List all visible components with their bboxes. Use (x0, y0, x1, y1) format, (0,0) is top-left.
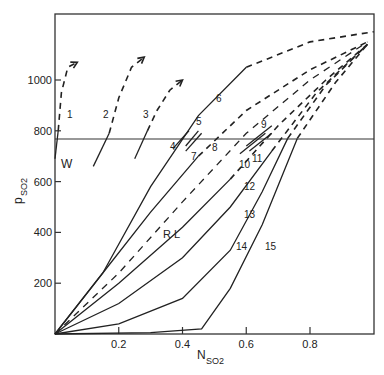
x-tick-label: 0.8 (302, 338, 317, 350)
series-label: 4 (170, 141, 176, 152)
series-label: 9 (261, 119, 267, 130)
series-8 (55, 156, 198, 334)
series-label: 7 (191, 151, 197, 162)
series-label: 3 (143, 109, 149, 120)
svg-text:SO2: SO2 (19, 178, 29, 196)
series-label: 12 (244, 181, 256, 192)
y-tick-label: 200 (34, 277, 52, 289)
series-6-dashed (246, 32, 373, 68)
svg-text:p: p (11, 197, 25, 204)
y-axis-label: p SO2 (11, 178, 29, 204)
y-tick-label: 1000 (28, 74, 52, 86)
series-1-dashed (58, 62, 77, 131)
series-2 (93, 133, 109, 166)
series-label: 14 (236, 241, 248, 252)
y-tick-label: 400 (34, 226, 52, 238)
annotation-label: R L (163, 228, 180, 240)
x-tick-label: 0.6 (239, 338, 254, 350)
series-13-dashed (272, 44, 368, 151)
y-tick-label: 800 (34, 125, 52, 137)
series-group (55, 32, 374, 334)
series-label: 13 (244, 209, 256, 220)
series-label: 1 (67, 109, 73, 120)
svg-text:N: N (197, 348, 206, 362)
series-label: 8 (212, 142, 218, 153)
series-3-dashed (147, 80, 182, 131)
annotation-label: W (61, 157, 73, 171)
x-axis-ticks: 0.20.40.60.8 (111, 327, 318, 350)
x-tick-label: 0.4 (175, 338, 190, 350)
x-tick-label: 0.2 (111, 338, 126, 350)
svg-text:SO2: SO2 (206, 356, 224, 366)
series-label: 6 (216, 93, 222, 104)
series-2-dashed (109, 57, 144, 133)
chart: 2004006008001000 0.20.40.60.8 1234567891… (0, 0, 384, 375)
series-6 (55, 67, 246, 334)
series-label: 11 (252, 153, 263, 164)
series-RL (55, 42, 367, 334)
x-axis-label: N SO2 (197, 348, 224, 366)
y-axis-ticks: 2004006008001000 (28, 74, 61, 289)
series-14-dashed (288, 44, 368, 138)
series-label: 15 (265, 241, 277, 252)
series-label: 10 (239, 159, 251, 170)
series-label: 2 (103, 109, 109, 120)
series-3 (135, 131, 148, 159)
y-tick-label: 600 (34, 176, 52, 188)
series-labels: 123456789101112131415WR L (61, 93, 277, 252)
series-label: 5 (196, 116, 202, 127)
